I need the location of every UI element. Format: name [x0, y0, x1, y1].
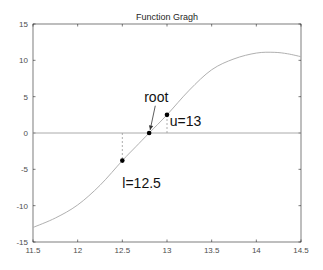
x-tick-label: 13: [163, 246, 172, 255]
x-tick-label: 13.5: [204, 246, 220, 255]
l-point: [120, 158, 125, 163]
root-label: root: [144, 89, 168, 105]
y-tick-label: 15: [19, 20, 28, 29]
chart-title: Function Gragh: [136, 12, 198, 22]
function-graph-figure: Function Gragh 11.51212.51313.51414.5151…: [0, 0, 323, 270]
x-tick-label: 12: [73, 246, 82, 255]
y-tick-label: -5: [21, 165, 29, 174]
y-tick-label: -15: [16, 238, 28, 247]
root-point: [147, 131, 152, 136]
y-tick-label: 10: [19, 56, 28, 65]
y-tick-label: 5: [24, 93, 29, 102]
x-tick-label: 12.5: [115, 246, 131, 255]
l-label: l=12.5: [122, 175, 161, 191]
x-tick-label: 14.5: [293, 246, 309, 255]
y-tick-label: -10: [16, 202, 28, 211]
u-label: u=13: [170, 113, 202, 129]
x-tick-label: 14: [252, 246, 261, 255]
x-tick-label: 11.5: [26, 246, 42, 255]
y-tick-label: 0: [24, 129, 29, 138]
u-point: [165, 113, 170, 118]
